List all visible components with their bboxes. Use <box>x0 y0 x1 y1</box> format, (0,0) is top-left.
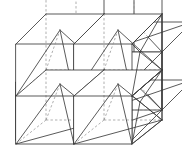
cubic-lattice-diagram <box>0 0 182 152</box>
figure-root <box>0 0 182 152</box>
front-row-overlay <box>16 14 162 144</box>
